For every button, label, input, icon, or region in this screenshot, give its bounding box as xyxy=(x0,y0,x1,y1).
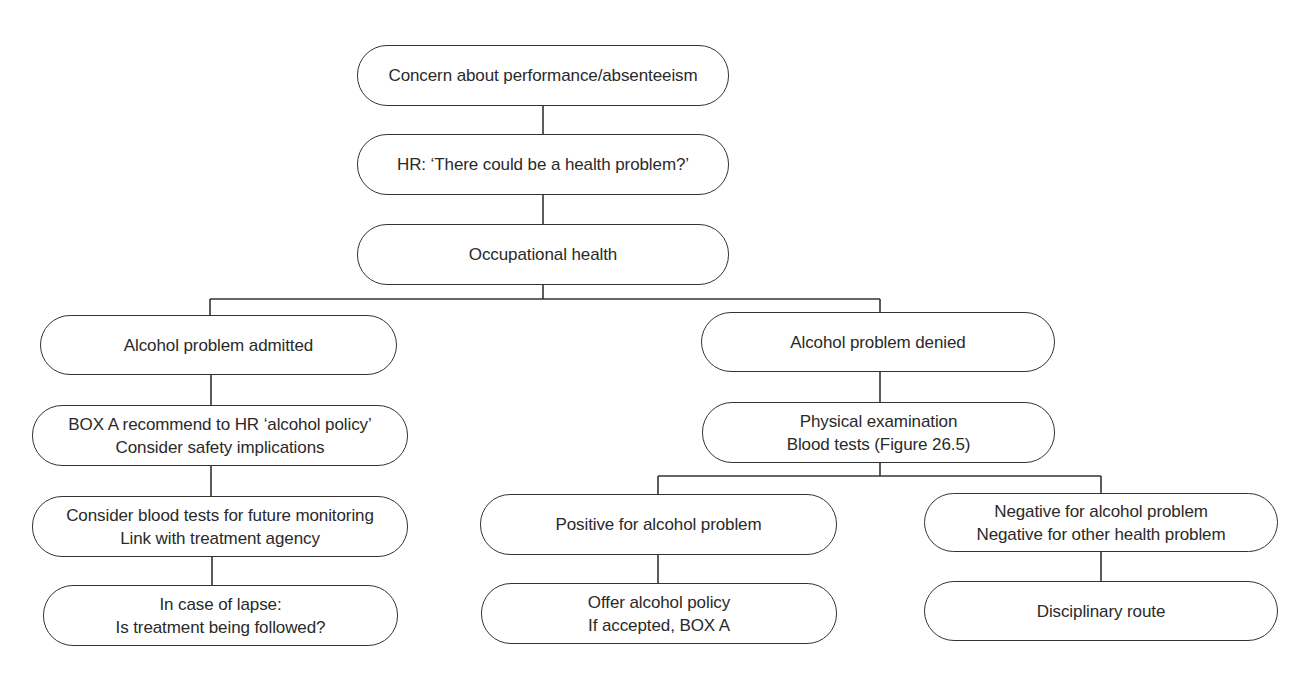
node-text: Negative for other health problem xyxy=(976,523,1225,546)
node-text: Consider safety implications xyxy=(116,436,325,459)
node-text: Consider blood tests for future monitori… xyxy=(66,504,374,527)
node-blood-tests-monitoring: Consider blood tests for future monitori… xyxy=(32,496,408,557)
node-text: HR: ‘There could be a health problem?’ xyxy=(397,153,689,176)
node-text: Negative for alcohol problem xyxy=(994,500,1208,523)
node-text: Link with treatment agency xyxy=(120,527,320,550)
flowchart-canvas: Concern about performance/absenteeism HR… xyxy=(0,0,1308,677)
node-lapse: In case of lapse: Is treatment being fol… xyxy=(43,585,398,646)
node-text: In case of lapse: xyxy=(159,593,281,616)
node-box-a: BOX A recommend to HR ‘alcohol policy’ C… xyxy=(32,405,408,466)
node-alcohol-admitted: Alcohol problem admitted xyxy=(40,315,397,375)
node-negative-results: Negative for alcohol problem Negative fo… xyxy=(924,493,1278,552)
node-text: Disciplinary route xyxy=(1037,600,1166,623)
node-text: Positive for alcohol problem xyxy=(555,513,761,536)
node-disciplinary-route: Disciplinary route xyxy=(924,581,1278,641)
node-text: Occupational health xyxy=(469,243,617,266)
node-text: Alcohol problem admitted xyxy=(124,334,313,357)
node-text: If accepted, BOX A xyxy=(588,614,730,637)
node-text: Concern about performance/absenteeism xyxy=(388,64,697,87)
node-text: Blood tests (Figure 26.5) xyxy=(787,433,971,456)
node-text: BOX A recommend to HR ‘alcohol policy’ xyxy=(68,413,371,436)
node-occupational-health: Occupational health xyxy=(357,224,729,285)
node-offer-alcohol-policy: Offer alcohol policy If accepted, BOX A xyxy=(481,583,837,644)
node-concern: Concern about performance/absenteeism xyxy=(357,45,729,106)
node-text: Alcohol problem denied xyxy=(790,331,965,354)
node-positive-alcohol: Positive for alcohol problem xyxy=(480,494,837,555)
node-text: Is treatment being followed? xyxy=(116,616,326,639)
node-text: Physical examination xyxy=(800,410,958,433)
node-text: Offer alcohol policy xyxy=(588,591,730,614)
node-hr-health-problem: HR: ‘There could be a health problem?’ xyxy=(357,134,729,195)
node-physical-examination: Physical examination Blood tests (Figure… xyxy=(702,402,1055,463)
node-alcohol-denied: Alcohol problem denied xyxy=(701,312,1055,372)
